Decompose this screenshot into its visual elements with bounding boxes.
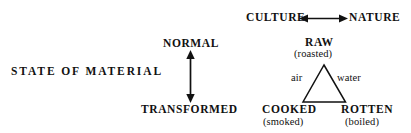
normal-label: NORMAL [163, 38, 219, 50]
normal-transformed-arrow [186, 50, 194, 103]
state-of-material-label: STATE OF MATERIAL [11, 66, 163, 78]
water-label: water [337, 73, 361, 84]
culinary-triangle-outline [303, 65, 346, 102]
culture-nature-arrow [299, 15, 348, 23]
raw-label: RAW [305, 37, 334, 49]
arrowhead-up-icon [186, 50, 194, 59]
arrowhead-down-icon [186, 94, 194, 103]
rotten-label: ROTTEN [341, 104, 393, 116]
smoked-label: (smoked) [263, 117, 303, 128]
cooked-label: COOKED [262, 104, 317, 116]
culture-label: CULTURE [246, 12, 305, 24]
air-label: air [291, 73, 302, 84]
nature-label: NATURE [349, 12, 400, 24]
boiled-label: (boiled) [345, 117, 379, 128]
roasted-label: (roasted) [294, 49, 332, 60]
diagram-canvas: STATE OF MATERIAL CULTURE NATURE NORMAL … [0, 0, 411, 133]
arrowhead-right-icon [339, 15, 348, 23]
transformed-label: TRANSFORMED [141, 104, 238, 116]
